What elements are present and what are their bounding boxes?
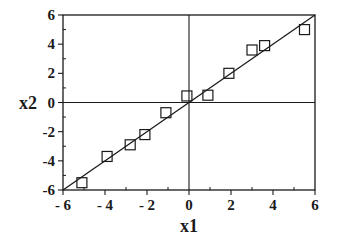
square-marker [300,25,310,35]
y-tick-label: -4 [43,153,56,169]
square-marker [247,45,257,55]
x-axis-label: x1 [180,216,198,236]
y-tick-label: 2 [48,65,56,81]
y-tick-label: -2 [43,124,56,140]
x-tick-label: 0 [185,197,193,213]
x-tick-label: - 4 [97,197,114,213]
x-tick-label: 6 [311,197,319,213]
x-tick-label: - 2 [139,197,155,213]
y-tick-label: -6 [43,182,56,198]
data-markers [77,25,310,188]
square-marker [182,91,192,101]
x-axis-ticks: - 6- 4- 20246 [55,187,319,213]
x-tick-label: - 6 [55,197,72,213]
x-tick-label: 2 [227,197,235,213]
x-tick-label: 4 [269,197,277,213]
y-tick-label: 6 [48,7,56,23]
square-marker [260,41,270,51]
y-tick-label: 0 [48,95,56,111]
y-axis-label: x2 [19,93,37,113]
scatter-chart: - 6- 4- 20246 -6-4-20246 x1 x2 [0,0,337,249]
y-tick-label: 4 [48,36,56,52]
